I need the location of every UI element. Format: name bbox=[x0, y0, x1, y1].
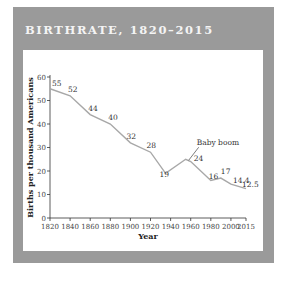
x-tick-label: 1940 bbox=[162, 223, 180, 231]
y-tick-label: 40 bbox=[37, 121, 46, 129]
data-label: 12.5 bbox=[242, 180, 259, 189]
chart-panel: 0102030405060182018401860188019001920194… bbox=[23, 50, 263, 251]
x-tick-label: 1900 bbox=[121, 223, 139, 231]
line-chart: 0102030405060182018401860188019001920194… bbox=[23, 50, 263, 251]
data-label: 28 bbox=[147, 141, 157, 150]
x-tick-label: 1980 bbox=[202, 223, 220, 231]
data-label: 32 bbox=[126, 132, 136, 141]
data-label: 55 bbox=[52, 79, 62, 88]
y-axis-title: Births per thousand Americans bbox=[25, 77, 35, 218]
baby-boom-annotation: Baby boom bbox=[197, 138, 239, 147]
chart-frame: BIRTHRATE, 1820–2015 0102030405060182018… bbox=[13, 7, 274, 263]
y-tick-label: 10 bbox=[37, 191, 46, 199]
x-tick-label: 1960 bbox=[182, 223, 200, 231]
x-axis-title: Year bbox=[137, 231, 158, 241]
data-label: 24 bbox=[194, 154, 204, 163]
y-tick-label: 60 bbox=[37, 74, 46, 82]
y-tick-label: 30 bbox=[37, 144, 46, 152]
chart-title: BIRTHRATE, 1820–2015 bbox=[25, 23, 214, 37]
data-label: 40 bbox=[108, 113, 118, 122]
data-label: 44 bbox=[88, 104, 98, 113]
data-label: 16 bbox=[209, 172, 219, 181]
x-tick-label: 1920 bbox=[142, 223, 160, 231]
x-tick-label: 2015 bbox=[237, 223, 255, 231]
y-tick-label: 20 bbox=[37, 168, 46, 176]
x-tick-label: 1860 bbox=[81, 223, 99, 231]
y-tick-label: 0 bbox=[42, 215, 46, 223]
data-label: 17 bbox=[221, 167, 231, 176]
x-tick-label: 1820 bbox=[41, 223, 59, 231]
x-tick-label: 1840 bbox=[61, 223, 79, 231]
data-label: 52 bbox=[68, 85, 78, 94]
y-tick-label: 50 bbox=[37, 97, 46, 105]
x-tick-label: 1880 bbox=[101, 223, 119, 231]
data-label: 19 bbox=[160, 170, 170, 179]
